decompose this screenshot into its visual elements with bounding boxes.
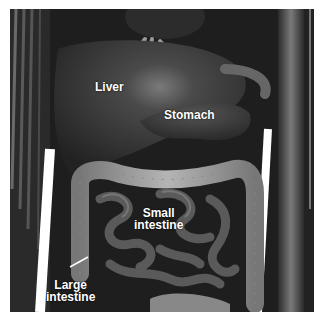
liver-label: Liver bbox=[95, 81, 124, 93]
small-intestine-label-line2: intestine bbox=[134, 219, 183, 231]
stomach-label: Stomach bbox=[164, 109, 215, 121]
small-intestine-label: Small intestine bbox=[134, 207, 183, 231]
abdomen-drawing bbox=[10, 9, 314, 312]
anatomy-illustration: Liver Stomach Small intestine Large inte… bbox=[10, 9, 314, 312]
left-side-muscles bbox=[10, 9, 50, 312]
large-intestine-label: Large intestine bbox=[46, 279, 95, 303]
large-intestine-label-line2: intestine bbox=[46, 291, 95, 303]
